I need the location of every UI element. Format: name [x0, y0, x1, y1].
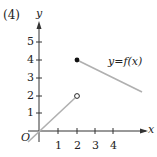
y-tick-label-2: 2	[27, 90, 34, 101]
origin-label: O	[21, 132, 30, 143]
y-tick-label-1: 1	[27, 107, 34, 118]
function-label: y=f(x)	[108, 56, 142, 67]
closed-point	[75, 58, 80, 63]
curve-segment-left	[28, 98, 75, 142]
x-tick-label-3: 3	[92, 140, 99, 151]
y-tick-label-4: 4	[27, 54, 34, 65]
x-tick-label-4: 4	[110, 140, 117, 151]
problem-label: (4)	[3, 9, 20, 21]
x-tick-label-2: 2	[74, 140, 81, 151]
y-tick-label-3: 3	[27, 72, 34, 83]
x-axis-label: x	[148, 124, 154, 135]
y-axis-label: y	[36, 8, 42, 19]
y-axis-arrow-icon	[37, 21, 42, 29]
y-tick-label-5: 5	[27, 36, 34, 47]
x-axis-arrow-icon	[140, 129, 148, 134]
open-point	[75, 94, 80, 99]
x-tick-label-1: 1	[55, 140, 62, 151]
